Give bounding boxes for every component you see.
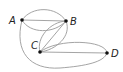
vertex-b	[64, 19, 68, 23]
edge-a-b-straight	[22, 20, 66, 21]
vertex-c	[38, 50, 42, 54]
edge-a-b-arc-above	[22, 10, 66, 21]
graph-diagram: A B C D	[0, 0, 123, 72]
vertex-a	[20, 18, 24, 22]
edge-b-c-straight	[40, 21, 66, 52]
vertex-label-b: B	[70, 16, 77, 27]
vertex-label-d: D	[111, 48, 119, 59]
edge-c-d-arc-above	[40, 42, 107, 53]
vertex-d	[105, 51, 109, 55]
vertex-label-c: C	[31, 40, 38, 51]
edge-c-d-straight	[40, 52, 107, 53]
vertex-label-a: A	[8, 15, 16, 26]
